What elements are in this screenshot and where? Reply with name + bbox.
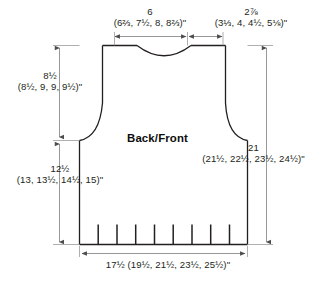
- body-length-sizes: (13, 13½, 14½, 15)": [0, 174, 120, 185]
- shoulder-width-primary: 2⅞: [197, 6, 305, 17]
- piece-name-label: Back/Front: [127, 132, 188, 144]
- body-length-label: 12½ (13, 13½, 14½, 15)": [0, 163, 120, 186]
- total-length-label: 21 (21½, 22½, 23½, 24½)": [180, 142, 327, 165]
- neck-width-label: 6 (6⅔, 7½, 8, 8⅔)": [95, 6, 205, 29]
- total-length-primary: 21: [180, 142, 327, 153]
- left-armhole-curve: [80, 103, 103, 141]
- shoulder-width-label: 2⅞ (3⅓, 4, 4½, 5⅛)": [197, 6, 305, 29]
- bottom-width-label: 17½ (19½, 21½, 23½, 25½)": [53, 259, 283, 270]
- body-length-primary: 12½: [0, 163, 120, 174]
- garment-schematic-diagram: 6 (6⅔, 7½, 8, 8⅔)" 2⅞ (3⅓, 4, 4½, 5⅛)" 8…: [0, 0, 327, 281]
- total-length-sizes: (21½, 22½, 23½, 24½)": [180, 153, 327, 164]
- neck-width-sizes: (6⅔, 7½, 8, 8⅔)": [95, 17, 205, 28]
- armhole-depth-label: 8½ (8½, 9, 9, 9½)": [2, 70, 98, 93]
- neck-width-primary: 6: [95, 6, 205, 17]
- armhole-depth-primary: 8½: [2, 70, 98, 81]
- bottom-width-primary: 17½ (19½, 21½, 23½, 25½)": [53, 259, 283, 270]
- hem-ribbing-ticks: [98, 225, 229, 245]
- armhole-depth-sizes: (8½, 9, 9, 9½)": [2, 81, 98, 92]
- shoulder-width-sizes: (3⅓, 4, 4½, 5⅛)": [197, 17, 305, 28]
- neckline-curve: [137, 46, 191, 56]
- right-armhole-curve: [226, 103, 248, 141]
